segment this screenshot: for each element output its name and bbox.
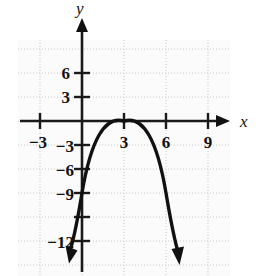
parabola-plot: −3 3 6 9 6 3 −3 −6 −9 −12 x y	[0, 0, 269, 276]
x-tick-label-6: 6	[162, 133, 171, 152]
y-axis-label: y	[74, 0, 84, 18]
y-tick-label--3: −3	[56, 137, 74, 156]
y-axis-arrow-icon	[76, 18, 88, 32]
y-tick-label--9: −9	[56, 185, 74, 204]
x-tick-label-3: 3	[120, 133, 129, 152]
y-tick-label--12: −12	[47, 233, 74, 252]
x-tick-label--3: −3	[29, 133, 47, 152]
x-tick-label-9: 9	[204, 133, 213, 152]
y-tick-label--6: −6	[56, 161, 74, 180]
y-tick-label-3: 3	[62, 88, 71, 107]
y-tick-label-6: 6	[62, 64, 71, 83]
x-axis-label: x	[239, 112, 248, 131]
graph-figure: −3 3 6 9 6 3 −3 −6 −9 −12 x y	[0, 0, 269, 276]
